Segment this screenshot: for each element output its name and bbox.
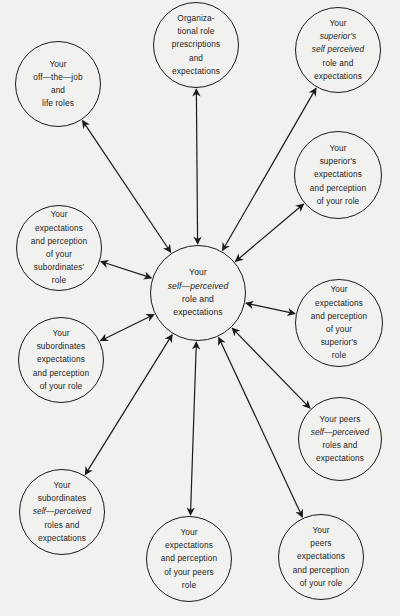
label-line: expectations — [172, 65, 220, 78]
role-node-label: Yoursuperior'sexpectationsand perception… — [310, 142, 366, 208]
label-line: Organiza- — [172, 12, 220, 25]
label-line: subordinates' — [31, 261, 87, 274]
role-node-label: Yourexpectationsand perceptionof yoursub… — [31, 208, 87, 287]
label-line: roles and — [33, 519, 92, 532]
role-node-label: Yoursubordinatesself—perceivedroles ande… — [33, 479, 92, 545]
label-line: and perception — [293, 564, 349, 577]
label-line: subordinates — [33, 340, 89, 353]
label-line: role — [31, 274, 87, 287]
role-node-exp-sup: Yourexpectationsand perceptionof yoursup… — [295, 279, 383, 367]
bidirectional-arrow-peer-exp — [219, 337, 303, 517]
role-node-self: Yourself—perceivedrole andexpectations — [150, 245, 246, 341]
label-line: Your — [33, 327, 89, 340]
label-line: expectations — [293, 550, 349, 563]
label-line: expectations — [311, 452, 370, 465]
role-node-sub-self: Yoursubordinatesself—perceivedroles ande… — [19, 469, 105, 555]
label-line: Your — [310, 142, 366, 155]
label-line: life roles — [33, 97, 82, 110]
label-line: expectations — [33, 532, 92, 545]
role-node-peer-self: Your peersself—perceivedroles andexpecta… — [298, 397, 382, 481]
label-line: of your role — [33, 380, 89, 393]
label-line: self perceived — [312, 43, 365, 56]
label-line: superior's — [311, 336, 367, 349]
bidirectional-arrow-exp-sup — [246, 303, 295, 313]
role-set-diagram: Organiza-tional roleprescriptionsandexpe… — [0, 0, 400, 616]
role-node-label: Youroff—the—jobandlife roles — [33, 58, 82, 111]
role-node-label: Yoursuperior'sself perceivedrole andexpe… — [312, 17, 365, 83]
label-line: and perception — [310, 182, 366, 195]
label-line: Your — [33, 479, 92, 492]
role-node-label: Yourexpectationsand perceptionof yoursup… — [311, 283, 367, 362]
label-line: self—perceived — [311, 426, 370, 439]
label-line: expectations — [33, 353, 89, 366]
label-line: expectations — [31, 222, 87, 235]
label-line: Your — [31, 208, 87, 221]
bidirectional-arrow-exp-sub — [101, 262, 152, 278]
role-node-sup-exp: Yoursuperior'sexpectationsand perception… — [294, 131, 382, 219]
label-line: off—the—job — [33, 71, 82, 84]
role-node-exp-peer: Yourexpectationsand perceptionof your pe… — [146, 516, 232, 602]
label-line: Your — [161, 526, 217, 539]
label-line: expectations — [310, 168, 366, 181]
bidirectional-arrow-exp-peer — [190, 342, 196, 515]
label-line: Your — [168, 266, 229, 279]
label-line: of your role — [293, 577, 349, 590]
label-line: and — [172, 52, 220, 65]
label-line: and perception — [31, 235, 87, 248]
label-line: of your role — [310, 195, 366, 208]
role-node-label: Your peersself—perceivedroles andexpecta… — [311, 413, 370, 466]
role-node-exp-sub: Yourexpectationsand perceptionof yoursub… — [16, 205, 102, 291]
label-line: Your peers — [311, 413, 370, 426]
label-line: self—perceived — [33, 505, 92, 518]
role-node-org: Organiza-tional roleprescriptionsandexpe… — [153, 2, 239, 88]
label-line: superior's — [310, 155, 366, 168]
label-line: Your — [311, 283, 367, 296]
role-node-sup-self: Yoursuperior'sself perceivedrole andexpe… — [295, 7, 381, 93]
bidirectional-arrow-sup-exp — [235, 204, 303, 261]
label-line: subordinates — [33, 492, 92, 505]
label-line: role and — [312, 57, 365, 70]
label-line: of your — [31, 248, 87, 261]
label-line: of your — [311, 323, 367, 336]
role-node-peer-exp: Yourpeersexpectationsand perceptionof yo… — [278, 514, 364, 600]
label-line: superior's — [312, 30, 365, 43]
role-node-label: Yourself—perceivedrole andexpectations — [168, 266, 229, 320]
label-line: peers — [293, 537, 349, 550]
label-line: expectations — [161, 539, 217, 552]
label-line: expectations — [311, 297, 367, 310]
role-node-offjob: Youroff—the—jobandlife roles — [15, 41, 101, 127]
label-line: Your — [312, 17, 365, 30]
label-line: role and — [168, 293, 229, 306]
label-line: expectations — [312, 70, 365, 83]
label-line: of your peers — [161, 566, 217, 579]
label-line: prescriptions — [172, 38, 220, 51]
label-line: roles and — [311, 439, 370, 452]
label-line: and — [33, 84, 82, 97]
role-node-label: Yoursubordinatesexpectationsand percepti… — [33, 327, 89, 393]
label-line: Your — [33, 58, 82, 71]
label-line: role — [311, 349, 367, 362]
label-line: Your — [293, 524, 349, 537]
role-node-label: Yourpeersexpectationsand perceptionof yo… — [293, 524, 349, 590]
label-line: and perception — [161, 552, 217, 565]
label-line: self—perceived — [168, 280, 229, 293]
role-node-sub-exp: Yoursubordinatesexpectationsand percepti… — [18, 317, 104, 403]
role-node-label: Yourexpectationsand perceptionof your pe… — [161, 526, 217, 592]
label-line: role — [161, 579, 217, 592]
bidirectional-arrow-sub-exp — [101, 315, 154, 341]
label-line: and perception — [311, 310, 367, 323]
label-line: and perception — [33, 367, 89, 380]
label-line: tional role — [172, 25, 220, 38]
bidirectional-arrow-org — [196, 89, 197, 244]
label-line: expectations — [168, 306, 229, 319]
role-node-label: Organiza-tional roleprescriptionsandexpe… — [172, 12, 220, 78]
